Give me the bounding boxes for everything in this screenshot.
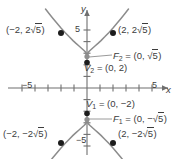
vertex-1-label: V1 = (0, −2)	[86, 99, 135, 109]
data-point-marker-bottom-right	[110, 140, 116, 146]
hyperbola-figure: (−2, 2√5) (2, 2√5) (−2, −2√5) (2, −2√5) …	[0, 0, 177, 159]
x-tick-label-5: 5	[152, 81, 157, 90]
focus-2-leader-line	[89, 55, 112, 57]
data-point-marker-bottom-left	[58, 140, 64, 146]
y-tick-label-minus-5: −5	[76, 136, 86, 145]
data-point-label-top-left: (−2, 2√5)	[6, 25, 45, 35]
data-point-label-bottom-left: (−2, −2√5)	[3, 129, 47, 139]
x-tick-label-minus-5: −5	[22, 81, 32, 90]
focus-1-marker	[84, 117, 89, 122]
data-point-marker-top-left	[58, 30, 64, 36]
vertex-1-marker	[84, 111, 90, 117]
data-point-label-top-right: (2, 2√5)	[118, 25, 151, 35]
focus-2-marker	[84, 54, 89, 59]
y-axis-label: y	[81, 4, 86, 14]
focus-1-label: F1 = (0, −√5)	[113, 114, 167, 124]
focus-2-label: F2 = (0, √5)	[113, 51, 161, 61]
data-point-marker-top-right	[110, 30, 116, 36]
y-tick-label-5: 5	[75, 25, 80, 34]
y-axis	[84, 10, 91, 155]
x-axis-label: x	[166, 85, 171, 95]
vertex-2-label: V2 = (0, 2)	[84, 63, 127, 73]
data-point-label-bottom-right: (2, −2√5)	[118, 129, 157, 139]
